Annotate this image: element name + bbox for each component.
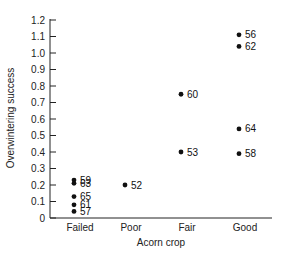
data-point-label: 53 xyxy=(187,147,199,158)
y-axis-title: Overwintering success xyxy=(5,68,16,169)
y-tick-label: 0.9 xyxy=(31,64,45,75)
x-axis-title: Acorn crop xyxy=(137,237,186,248)
y-tick-label: 0.8 xyxy=(31,81,45,92)
x-categories: FailedPoorFairGood xyxy=(66,222,257,233)
data-point xyxy=(237,151,242,156)
data-point-label: 60 xyxy=(187,89,199,100)
y-tick-label: 0.6 xyxy=(31,114,45,125)
data-point-label: 63 xyxy=(80,178,92,189)
chart: 00.10.20.30.40.50.60.70.80.91.01.11.2 Fa… xyxy=(0,0,283,264)
data-point xyxy=(179,92,184,97)
y-tick-label: 0.4 xyxy=(31,147,45,158)
data-point-label: 52 xyxy=(131,180,143,191)
x-category-label: Good xyxy=(233,222,257,233)
y-tick-label: 1.1 xyxy=(31,31,45,42)
data-point xyxy=(72,209,77,214)
data-point-label: 64 xyxy=(245,123,257,134)
y-tick-label: 0.3 xyxy=(31,163,45,174)
y-tick-label: 0.1 xyxy=(31,196,45,207)
y-tick-label: 1.0 xyxy=(31,48,45,59)
data-point xyxy=(123,183,128,188)
data-points: 596365615752605356626458 xyxy=(72,29,257,217)
data-point xyxy=(237,44,242,49)
data-point-label: 58 xyxy=(245,148,257,159)
data-point xyxy=(72,194,77,199)
data-point-label: 56 xyxy=(245,29,257,40)
data-point xyxy=(72,202,77,207)
data-point xyxy=(237,32,242,37)
y-ticks: 00.10.20.30.40.50.60.70.80.91.01.11.2 xyxy=(31,15,56,224)
data-point-label: 62 xyxy=(245,41,257,52)
y-tick-label: 0.7 xyxy=(31,97,45,108)
y-tick-label: 0.2 xyxy=(31,180,45,191)
y-tick-label: 1.2 xyxy=(31,15,45,26)
x-category-label: Failed xyxy=(66,222,93,233)
x-category-label: Fair xyxy=(178,222,196,233)
y-tick-label: 0 xyxy=(39,213,45,224)
x-category-label: Poor xyxy=(120,222,142,233)
y-tick-label: 0.5 xyxy=(31,130,45,141)
data-point xyxy=(237,126,242,131)
data-point xyxy=(179,150,184,155)
data-point xyxy=(72,181,77,186)
data-point-label: 57 xyxy=(80,206,92,217)
